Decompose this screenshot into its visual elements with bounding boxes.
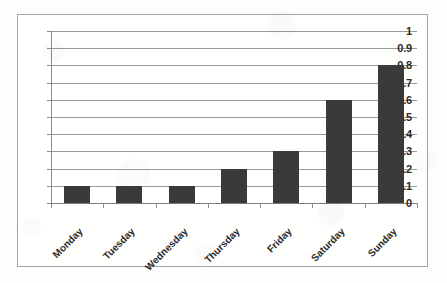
x-tick-mark bbox=[417, 203, 418, 208]
plot-area: 10.90.80.70.60.50.40.30.20.10 MondayTues… bbox=[51, 31, 417, 203]
bar-slot bbox=[260, 31, 312, 203]
bar-slot bbox=[156, 31, 208, 203]
x-tick-label: Wednesday bbox=[142, 226, 189, 273]
bar-slot bbox=[103, 31, 155, 203]
x-tick-mark bbox=[312, 203, 313, 208]
x-tick-label: Friday bbox=[247, 226, 294, 273]
bar[interactable] bbox=[116, 186, 142, 203]
x-tick-label: Sunday bbox=[351, 226, 398, 273]
bar-slot bbox=[312, 31, 364, 203]
x-tick-label: Saturday bbox=[299, 226, 346, 273]
x-tick-label: Thursday bbox=[195, 226, 242, 273]
bar[interactable] bbox=[64, 186, 90, 203]
x-tick-label: Tuesday bbox=[90, 226, 137, 273]
bar[interactable] bbox=[378, 65, 404, 203]
x-tick-label: Monday bbox=[38, 226, 85, 273]
bar-slot bbox=[51, 31, 103, 203]
bar-slot bbox=[208, 31, 260, 203]
x-tick-mark bbox=[51, 203, 52, 208]
bar[interactable] bbox=[273, 151, 299, 203]
bar[interactable] bbox=[326, 100, 352, 203]
x-tick-mark bbox=[103, 203, 104, 208]
x-tick-mark bbox=[156, 203, 157, 208]
bar[interactable] bbox=[221, 169, 247, 203]
x-tick-mark bbox=[208, 203, 209, 208]
chart-frame: 10.90.80.70.60.50.40.30.20.10 MondayTues… bbox=[17, 14, 428, 267]
x-tick-mark bbox=[365, 203, 366, 208]
gridline bbox=[51, 203, 417, 204]
x-tick-mark bbox=[260, 203, 261, 208]
bar-slot bbox=[365, 31, 417, 203]
bar[interactable] bbox=[169, 186, 195, 203]
